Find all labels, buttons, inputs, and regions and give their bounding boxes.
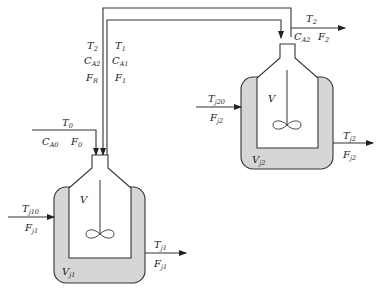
jacket-1-outlet-temp-label: Tj1 xyxy=(154,239,167,252)
jacket-1-inlet-temp-label: Tj10 xyxy=(22,203,39,216)
jacket-2-outlet-temp-label: Tj2 xyxy=(343,130,356,143)
product-conc-label: CA2 xyxy=(294,31,311,44)
recycle-left-label-1: CA2 xyxy=(84,55,101,68)
reactor-2 xyxy=(241,44,333,169)
feed-conc-label: CA0 xyxy=(42,136,59,149)
recycle-right-label-2: F1 xyxy=(114,72,126,85)
recycle-right-label-1: CA1 xyxy=(112,55,129,68)
jacket-1-outlet-flow-label: Fj1 xyxy=(153,258,167,271)
recycle-left-label-2: FR xyxy=(85,72,98,85)
recycle-right-label-0: T1 xyxy=(115,40,126,53)
reactor-1 xyxy=(54,155,145,283)
jacket-2-outlet-flow-label: Fj2 xyxy=(342,149,356,162)
jacket-2-inlet-flow-label: Fj2 xyxy=(209,112,223,125)
recycle-left-label-0: T2 xyxy=(87,40,98,53)
process-diagram: T2 CA2 FR T1 CA1 F1 T0 CA0 F0 T2 CA2 F2 … xyxy=(0,0,382,289)
jacket-2-inlet-temp-label: Tj20 xyxy=(208,93,225,106)
feed-flow-label: F0 xyxy=(70,136,82,149)
product-temp-label: T2 xyxy=(306,13,317,26)
jacket-1-inlet-flow-label: Fj1 xyxy=(24,222,38,235)
feed-temp-label: T0 xyxy=(62,117,73,130)
product-flow-label: F2 xyxy=(317,31,329,44)
